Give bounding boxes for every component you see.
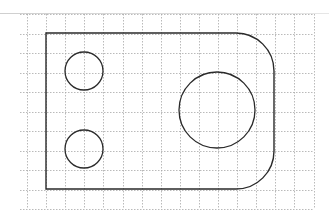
dotted-grid bbox=[20, 14, 315, 210]
drawing-canvas bbox=[0, 0, 329, 221]
holes-group bbox=[65, 52, 255, 168]
top-left-hole bbox=[65, 52, 103, 90]
bottom-left-hole bbox=[65, 130, 103, 168]
large-right-hole bbox=[179, 72, 255, 148]
plate-outline bbox=[46, 33, 274, 189]
